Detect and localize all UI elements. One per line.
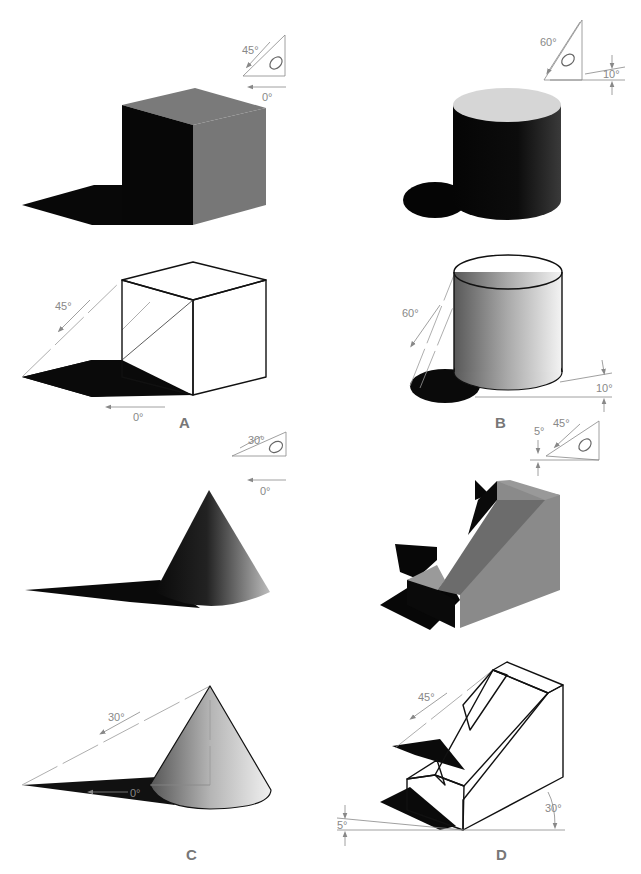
panel-c-construction: 30° 0° C	[22, 686, 271, 863]
eye-icon	[559, 52, 576, 69]
cone-body	[155, 490, 270, 606]
svg-text:45°: 45°	[418, 691, 435, 703]
light-indicator-c: 30° 0°	[232, 432, 286, 497]
svg-text:5°: 5°	[337, 819, 348, 831]
svg-text:0°: 0°	[260, 485, 271, 497]
panel-b-rendered: 60° 10°	[403, 20, 625, 220]
svg-text:5°: 5°	[534, 425, 545, 437]
shading-diagram: 45° 0° 45° 0° A 60°	[0, 0, 641, 874]
light-indicator-b: 60° 10°	[540, 20, 625, 95]
cylinder-top	[453, 88, 561, 122]
eye-icon	[267, 439, 284, 455]
panel-a-rendered: 45° 0°	[22, 35, 286, 225]
panel-d-rendered: 45° 5°	[380, 417, 599, 630]
svg-text:30°: 30°	[248, 434, 265, 446]
svg-text:0°: 0°	[262, 91, 273, 103]
eye-icon	[577, 437, 594, 454]
svg-text:10°: 10°	[596, 382, 613, 394]
svg-text:60°: 60°	[540, 36, 557, 48]
light-indicator-d: 45° 5°	[530, 417, 599, 476]
cube-right-face	[193, 108, 266, 225]
svg-text:0°: 0°	[133, 411, 144, 423]
svg-text:0°: 0°	[130, 787, 141, 799]
panel-label-a: A	[179, 414, 190, 431]
panel-label-b: B	[495, 414, 506, 431]
svg-text:45°: 45°	[242, 44, 259, 56]
panel-d-construction: 45° 5° 30° D	[337, 662, 565, 863]
panel-a-construction: 45° 0° A	[22, 262, 266, 431]
cast-shadow	[22, 185, 122, 225]
svg-text:10°: 10°	[603, 68, 620, 80]
svg-text:30°: 30°	[108, 711, 125, 723]
cube-shadow-face	[122, 105, 193, 225]
panel-label-d: D	[496, 846, 507, 863]
light-indicator-a: 45° 0°	[242, 35, 286, 103]
panel-b-construction: 60° 10° B	[402, 255, 613, 431]
cast-shadow	[22, 360, 193, 397]
svg-text:45°: 45°	[553, 417, 570, 429]
eye-icon	[268, 55, 285, 72]
panel-c-rendered: 30° 0°	[25, 432, 286, 608]
panel-label-c: C	[186, 846, 197, 863]
svg-text:45°: 45°	[55, 300, 72, 312]
svg-text:60°: 60°	[402, 307, 419, 319]
